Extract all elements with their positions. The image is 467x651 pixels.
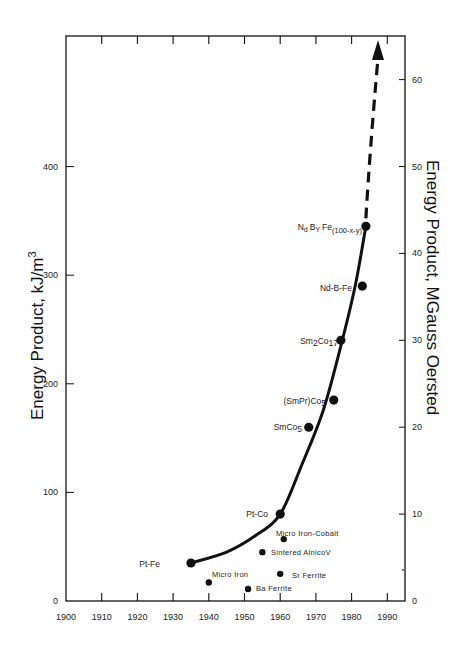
label-pt-fe: Pt-Fe — [139, 559, 160, 569]
left-y-tick-label: 100 — [43, 487, 58, 497]
projection-dashed-line — [366, 58, 378, 218]
label-pt-co: Pt-Co — [246, 509, 268, 519]
stray-mark — [402, 569, 404, 571]
label-ba-ferrite: Ba Ferrite — [256, 584, 292, 593]
x-tick-label: 1910 — [92, 612, 112, 622]
right-y-axis-title: Energy Product, MGauss Oersted — [423, 160, 442, 415]
data-point — [206, 579, 212, 585]
right-y-tick-label: 40 — [412, 248, 422, 258]
x-tick-label: 1950 — [234, 612, 254, 622]
data-point — [259, 549, 265, 555]
energy-product-chart: 1900191019201930194019501960197019801990… — [0, 0, 467, 651]
data-point — [277, 571, 283, 577]
x-tick-label: 1940 — [199, 612, 219, 622]
data-point — [186, 558, 195, 567]
data-point — [361, 222, 370, 231]
label-smco5: SmCo5 — [274, 422, 303, 434]
right-y-tick-label: 60 — [412, 75, 422, 85]
right-y-tick-label: 20 — [412, 422, 422, 432]
data-point — [358, 281, 367, 290]
right-y-tick-label: 30 — [412, 335, 422, 345]
label-micro-iron: Micro Iron — [212, 570, 248, 579]
label-sm2co17: Sm2Co17 — [300, 336, 338, 348]
left-y-tick-label: 0 — [53, 596, 58, 606]
label-sr-ferrite: Sr Ferrite — [292, 571, 326, 580]
right-y-tick-label: 10 — [412, 509, 422, 519]
x-tick-label: 1970 — [306, 612, 326, 622]
label-nd-b-fe: Nd-B-Fe — [320, 283, 352, 293]
x-tick-label: 1980 — [342, 612, 362, 622]
plot-frame — [66, 36, 405, 601]
left-y-axis-title: Energy Product, kJ/m3 — [26, 251, 47, 420]
right-y-tick-label: 0 — [412, 596, 417, 606]
x-tick-label: 1900 — [56, 612, 76, 622]
right-y-tick-label: 50 — [412, 162, 422, 172]
label-sintered-alnicov: Sintered AlnicoV — [271, 548, 331, 557]
label-micro-iron-cobalt: Micro Iron-Cobalt — [276, 529, 339, 538]
x-tick-label: 1930 — [163, 612, 183, 622]
label-smprco5: (SmPr)Co5 — [283, 396, 326, 408]
x-tick-label: 1990 — [377, 612, 397, 622]
x-tick-label: 1920 — [127, 612, 147, 622]
right-y-axis-ticks: 0102030405060 — [399, 75, 422, 606]
left-y-axis-ticks: 0100200300400 — [43, 162, 74, 606]
data-point — [276, 510, 285, 519]
x-axis-ticks — [102, 36, 388, 601]
data-point — [329, 395, 338, 404]
data-point — [304, 423, 313, 432]
x-tick-label: 1960 — [270, 612, 290, 622]
data-point — [245, 586, 251, 592]
label-ndbyfe: NdBYFe(100-x-y) — [298, 222, 363, 235]
x-axis-tick-labels: 1900191019201930194019501960197019801990 — [56, 612, 397, 622]
arrowhead-icon — [372, 40, 384, 60]
left-y-tick-label: 400 — [43, 162, 58, 172]
